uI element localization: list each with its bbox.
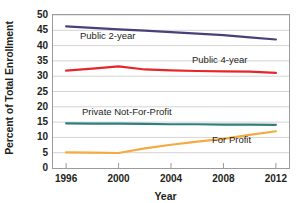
y-tick-label: 40 xyxy=(20,41,48,51)
x-tick-label: 2000 xyxy=(99,174,139,184)
y-tick-label: 25 xyxy=(20,87,48,97)
y-tick-label: 15 xyxy=(20,117,48,127)
y-axis-title: Percent of Total Enrollment xyxy=(3,21,15,155)
y-tick-label: 35 xyxy=(20,56,48,66)
y-tick-label: 10 xyxy=(20,132,48,142)
y-axis-tick-labels: 05101520253035404550 xyxy=(18,14,48,169)
x-tick-label: 2004 xyxy=(151,174,191,184)
x-tick-label: 1996 xyxy=(46,174,86,184)
y-tick-label: 50 xyxy=(20,10,48,20)
y-tick-label: 20 xyxy=(20,102,48,112)
series-line-private-not-for-profit xyxy=(66,123,276,125)
y-axis-title-container: Percent of Total Enrollment xyxy=(0,0,18,175)
y-tick-label: 45 xyxy=(20,25,48,35)
x-axis-title: Year xyxy=(14,190,303,202)
series-label-public-2-year: Public 2-year xyxy=(80,31,135,41)
series-label-for-profit: For Profit xyxy=(212,135,251,145)
y-tick-label: 0 xyxy=(20,163,48,173)
series-line-public-4-year xyxy=(66,66,276,72)
y-tick-label: 5 xyxy=(20,148,48,158)
enrollment-line-chart: Percent of Total Enrollment 051015202530… xyxy=(0,0,303,203)
y-tick-label: 30 xyxy=(20,71,48,81)
x-tick-label: 2012 xyxy=(256,174,296,184)
x-tick-label: 2008 xyxy=(203,174,243,184)
series-label-public-4-year: Public 4-year xyxy=(192,55,247,65)
series-label-private-not-for-profit: Private Not-For-Profit xyxy=(82,107,172,117)
